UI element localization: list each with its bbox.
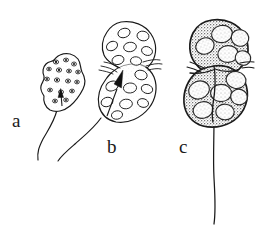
flagellum-c	[214, 120, 216, 224]
panel-label-b: b	[107, 137, 117, 156]
panel-label-c: c	[179, 137, 187, 156]
flagellum-b	[58, 118, 101, 161]
panel-c-group	[184, 20, 254, 224]
panel-label-a: a	[12, 111, 20, 130]
figure-container: a b c	[0, 0, 271, 244]
flagellum-a	[38, 110, 57, 160]
panel-a-group	[38, 54, 85, 160]
scientific-line-drawing	[0, 0, 271, 244]
